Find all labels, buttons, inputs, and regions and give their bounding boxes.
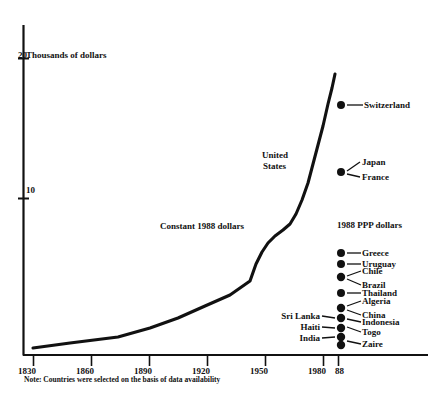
leader-china bbox=[347, 310, 361, 315]
annotation-constant-1988-dollars: Constant 1988 dollars bbox=[160, 221, 244, 232]
y-tick-label-10: 10 bbox=[26, 185, 35, 195]
chart-container: Thousands of dollars 20 10 1830 1860 189… bbox=[0, 0, 429, 395]
annotation-1988-ppp-dollars: 1988 PPP dollars bbox=[337, 220, 402, 231]
point-label-sri-lanka[interactable]: Sri Lanka bbox=[268, 311, 320, 321]
point-label-haiti[interactable]: Haiti bbox=[268, 322, 320, 332]
point-label-togo[interactable]: Togo bbox=[362, 327, 381, 337]
x-tick-label-1980: 1980 bbox=[308, 366, 326, 376]
dot-chile-brazil[interactable] bbox=[337, 273, 345, 281]
x-tick-label-88: 88 bbox=[335, 366, 344, 376]
dot-uruguay[interactable] bbox=[337, 260, 345, 268]
y-tick-label-20: 20 bbox=[18, 50, 27, 60]
point-label-japan[interactable]: Japan bbox=[362, 157, 386, 167]
leader-togo bbox=[347, 327, 361, 332]
point-label-indonesia[interactable]: Indonesia bbox=[362, 317, 400, 327]
point-label-india[interactable]: India bbox=[268, 333, 320, 343]
dot-zaire[interactable] bbox=[337, 341, 345, 349]
chart-footnote: Note: Countries were selected on the bas… bbox=[24, 375, 220, 384]
annotation-united-states-line2: States bbox=[263, 161, 286, 172]
leader-chile bbox=[347, 271, 361, 276]
leader-sri-lanka bbox=[322, 316, 335, 318]
leader-india bbox=[322, 337, 335, 338]
point-label-france[interactable]: France bbox=[362, 172, 389, 182]
point-label-zaire[interactable]: Zaire bbox=[362, 339, 383, 349]
leader-japan bbox=[347, 162, 360, 171]
leader-haiti bbox=[322, 327, 335, 328]
dot-switzerland[interactable] bbox=[337, 101, 345, 109]
leader-zaire bbox=[347, 341, 361, 344]
point-label-algeria[interactable]: Algeria bbox=[362, 296, 391, 306]
y-axis-title: Thousands of dollars bbox=[26, 50, 107, 60]
us-income-line bbox=[33, 74, 335, 348]
dot-thailand[interactable] bbox=[337, 289, 345, 297]
leader-brazil bbox=[347, 279, 361, 285]
dot-haiti-togo[interactable] bbox=[337, 324, 345, 332]
leader-france bbox=[347, 174, 360, 177]
point-label-chile[interactable]: Chile bbox=[362, 266, 383, 276]
dot-sri-lanka-indonesia[interactable] bbox=[337, 314, 345, 322]
dot-greece[interactable] bbox=[337, 249, 345, 257]
leader-algeria bbox=[347, 301, 361, 306]
x-tick-label-1950: 1950 bbox=[250, 366, 268, 376]
dot-algeria-china[interactable] bbox=[337, 304, 345, 312]
leader-indonesia bbox=[347, 319, 361, 322]
dot-japan-france[interactable] bbox=[337, 168, 345, 176]
annotation-united-states-line1: United bbox=[262, 150, 288, 161]
point-label-switzerland[interactable]: Switzerland bbox=[364, 100, 410, 110]
dot-india[interactable] bbox=[337, 333, 345, 341]
point-label-greece[interactable]: Greece bbox=[362, 248, 389, 258]
